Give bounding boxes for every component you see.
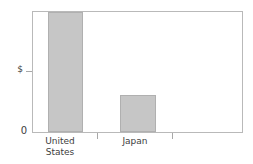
plot-area xyxy=(32,11,243,133)
x-axis-label-japan: Japan xyxy=(105,136,165,147)
x-axis-tick-2 xyxy=(172,133,173,139)
bar-united-states xyxy=(48,12,83,132)
bar-japan xyxy=(120,95,156,132)
x-axis-label-united-states: United States xyxy=(30,136,90,158)
y-axis-zero-label: 0 xyxy=(9,125,27,136)
bar-chart: $ 0 United States Japan xyxy=(0,0,253,164)
y-axis-unit-label: $ xyxy=(7,64,23,75)
x-axis-tick-1 xyxy=(97,133,98,139)
